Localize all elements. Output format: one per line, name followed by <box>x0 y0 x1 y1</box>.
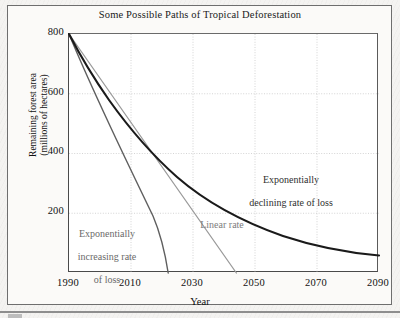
annotation-declining-line1: Exponentially <box>232 174 350 186</box>
annotation-increasing-line2: increasing rate <box>58 251 156 263</box>
annotation-declining-line2: declining rate of loss <box>232 197 350 209</box>
page-corner-mark <box>8 314 22 318</box>
page-bottom-rule <box>0 311 400 313</box>
annotation-exponentially-declining: Exponentially declining rate of loss <box>232 162 350 220</box>
y-axis-title-line2: (millions of hectares) <box>39 40 50 190</box>
y-axis-title: Remaining forest area (millions of hecta… <box>28 40 50 190</box>
y-tick-label-800: 800 <box>24 26 64 37</box>
x-tick-label-2070: 2070 <box>294 277 338 288</box>
figure-container: Some Possible Paths of Tropical Deforest… <box>0 0 400 318</box>
chart-title: Some Possible Paths of Tropical Deforest… <box>0 9 400 20</box>
x-tick-label-2030: 2030 <box>170 277 214 288</box>
x-tick-label-2090: 2090 <box>356 277 400 288</box>
y-axis-title-line1: Remaining forest area <box>28 40 39 190</box>
x-tick-label-2050: 2050 <box>232 277 276 288</box>
annotation-increasing-line1: Exponentially <box>58 228 156 240</box>
y-tick-label-200: 200 <box>24 205 64 216</box>
annotation-linear-rate: Linear rate <box>186 219 258 231</box>
annotation-exponentially-increasing: Exponentially increasing rate of loss <box>58 216 156 297</box>
annotation-increasing-line3: of loss <box>58 274 156 286</box>
x-axis-title: Year <box>0 296 400 307</box>
